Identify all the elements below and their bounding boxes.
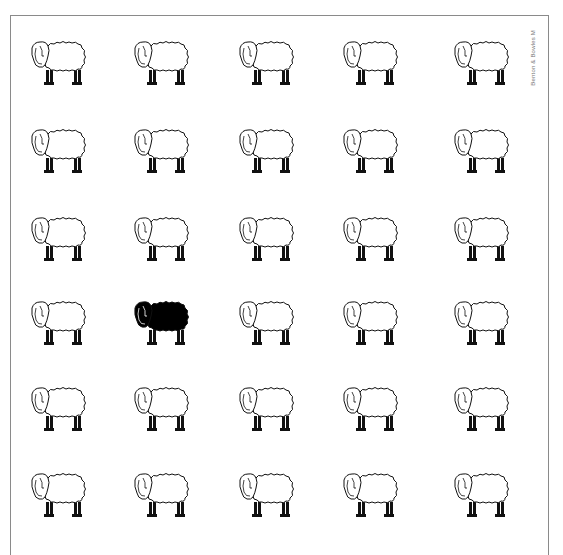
- white-sheep: [449, 380, 517, 434]
- white-sheep: [234, 210, 302, 264]
- white-sheep: [26, 34, 94, 88]
- white-sheep: [338, 122, 406, 176]
- white-sheep: [129, 466, 197, 520]
- white-sheep: [338, 466, 406, 520]
- sheep-icon: [129, 122, 197, 176]
- white-sheep: [129, 210, 197, 264]
- sheep-icon: [129, 380, 197, 434]
- sheep-icon: [449, 122, 517, 176]
- white-sheep: [234, 466, 302, 520]
- white-sheep: [129, 122, 197, 176]
- black-sheep: [129, 294, 197, 348]
- sheep-icon: [338, 380, 406, 434]
- sheep-icon: [234, 466, 302, 520]
- sheep-icon: [234, 122, 302, 176]
- white-sheep: [26, 210, 94, 264]
- sheep-icon: [234, 294, 302, 348]
- sheep-icon: [449, 210, 517, 264]
- white-sheep: [234, 122, 302, 176]
- sheep-icon: [129, 466, 197, 520]
- sheep-icon: [129, 210, 197, 264]
- sheep-icon: [26, 122, 94, 176]
- white-sheep: [449, 122, 517, 176]
- sheep-icon: [449, 380, 517, 434]
- white-sheep: [338, 210, 406, 264]
- white-sheep: [234, 294, 302, 348]
- white-sheep: [449, 294, 517, 348]
- white-sheep: [234, 34, 302, 88]
- white-sheep: [26, 380, 94, 434]
- white-sheep: [129, 380, 197, 434]
- white-sheep: [129, 34, 197, 88]
- sheep-icon: [338, 210, 406, 264]
- sheep-icon: [234, 210, 302, 264]
- white-sheep: [26, 466, 94, 520]
- agency-credit: Benton & Bowles M: [530, 30, 536, 86]
- sheep-icon: [26, 34, 94, 88]
- white-sheep: [338, 380, 406, 434]
- white-sheep: [234, 380, 302, 434]
- sheep-icon: [129, 294, 197, 348]
- white-sheep: [449, 210, 517, 264]
- sheep-icon: [234, 380, 302, 434]
- white-sheep: [26, 294, 94, 348]
- sheep-icon: [338, 294, 406, 348]
- sheep-icon: [338, 34, 406, 88]
- white-sheep: [338, 294, 406, 348]
- white-sheep: [449, 466, 517, 520]
- sheep-icon: [449, 34, 517, 88]
- white-sheep: [26, 122, 94, 176]
- sheep-icon: [338, 466, 406, 520]
- white-sheep: [449, 34, 517, 88]
- sheep-icon: [26, 380, 94, 434]
- sheep-icon: [234, 34, 302, 88]
- sheep-icon: [449, 294, 517, 348]
- sheep-icon: [26, 210, 94, 264]
- sheep-icon: [129, 34, 197, 88]
- sheep-icon: [338, 122, 406, 176]
- sheep-icon: [26, 294, 94, 348]
- sheep-icon: [26, 466, 94, 520]
- sheep-icon: [449, 466, 517, 520]
- white-sheep: [338, 34, 406, 88]
